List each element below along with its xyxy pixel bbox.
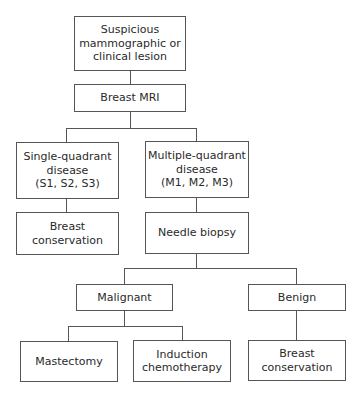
connector-malignant-split — [124, 311, 125, 326]
node-label: Breast conservation — [32, 220, 103, 247]
node-induction-chemotherapy: Induction chemotherapy — [133, 340, 231, 382]
node-label: Breast conservation — [261, 347, 332, 374]
node-label: Needle biopsy — [158, 226, 236, 240]
connector-single-conservation — [66, 199, 67, 212]
node-label: Multiple-quadrant disease (M1, M2, M3) — [148, 149, 246, 190]
node-label: Malignant — [97, 291, 151, 305]
node-label: Induction chemotherapy — [142, 348, 222, 375]
node-breast-conservation-left: Breast conservation — [16, 212, 119, 255]
node-label: Single-quadrant disease (S1, S2, S3) — [23, 150, 111, 191]
node-label: Breast MRI — [100, 91, 159, 105]
connector-to-benign — [296, 268, 297, 284]
connector-to-induction — [182, 326, 183, 340]
connector-benign-conservation — [296, 311, 297, 340]
node-suspicious-lesion: Suspicious mammographic or clinical lesi… — [74, 16, 186, 71]
connector-quadrant-bar — [66, 128, 197, 129]
connector-to-multiple — [196, 128, 197, 141]
node-needle-biopsy: Needle biopsy — [145, 212, 249, 254]
connector-malignant-bar — [68, 326, 183, 327]
connector-needle-split — [196, 254, 197, 268]
connector-to-single — [66, 128, 67, 142]
connector-mri-split — [130, 112, 131, 128]
node-label: Benign — [278, 291, 316, 305]
node-breast-conservation-right: Breast conservation — [248, 340, 346, 381]
node-label: Mastectomy — [35, 355, 102, 369]
node-breast-mri: Breast MRI — [74, 84, 186, 112]
connector-start-mri — [130, 71, 131, 84]
node-label: Suspicious mammographic or clinical lesi… — [79, 23, 181, 64]
node-benign: Benign — [248, 284, 346, 311]
node-single-quadrant: Single-quadrant disease (S1, S2, S3) — [16, 142, 119, 199]
connector-biopsy-bar — [124, 268, 297, 269]
connector-to-mastectomy — [68, 326, 69, 341]
node-mastectomy: Mastectomy — [20, 341, 118, 382]
connector-multiple-needle — [196, 198, 197, 212]
node-malignant: Malignant — [76, 284, 173, 311]
node-multiple-quadrant: Multiple-quadrant disease (M1, M2, M3) — [145, 141, 249, 198]
connector-to-malignant — [124, 268, 125, 284]
